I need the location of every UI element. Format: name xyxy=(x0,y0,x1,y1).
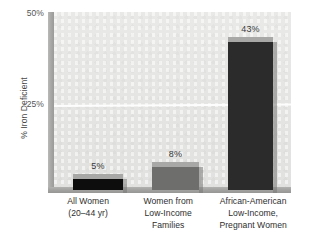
x-axis-label-1-line-2: (20–44 yr) xyxy=(48,208,128,220)
bar-all-women xyxy=(73,174,123,190)
bar-cap xyxy=(228,37,273,42)
y-axis-tick-25: 25% xyxy=(0,99,44,109)
bar-shadow xyxy=(199,167,203,193)
x-axis-label-3-line-3: Pregnant Women xyxy=(208,220,298,232)
x-axis-labels: All Women (20–44 yr) Women from Low-Inco… xyxy=(48,196,298,236)
bar-low-income-women xyxy=(152,162,199,190)
bar-value-label-3: 43% xyxy=(226,24,275,34)
bar-body xyxy=(73,179,123,190)
x-axis-label-2-line-1: Women from xyxy=(128,196,208,208)
bar-value-label-1: 5% xyxy=(73,161,123,171)
x-axis-label-2-line-2: Low-Income xyxy=(128,208,208,220)
x-axis-label-3-line-1: African-American xyxy=(208,196,298,208)
x-axis-label-2: Women from Low-Income Families xyxy=(128,196,208,236)
bar-shadow xyxy=(123,179,127,193)
y-axis-spine xyxy=(48,12,54,193)
x-axis-label-1-line-1: All Women xyxy=(48,196,128,208)
bar-cap xyxy=(152,162,199,167)
bar-african-american-pregnant-women xyxy=(228,37,273,190)
x-axis-label-2-line-3: Families xyxy=(128,220,208,232)
bar-body xyxy=(152,167,199,190)
x-axis-label-3-line-2: Low-Income, xyxy=(208,208,298,220)
y-axis-tick-50: 50% xyxy=(0,8,44,18)
bar-cap xyxy=(73,174,123,179)
x-axis-label-1: All Women (20–44 yr) xyxy=(48,196,128,236)
bar-shadow xyxy=(273,42,277,193)
bar-value-label-2: 8% xyxy=(151,149,200,159)
x-axis-label-3: African-American Low-Income, Pregnant Wo… xyxy=(208,196,298,236)
bar-body xyxy=(228,42,273,190)
bar-chart: % Iron Deficient 50% 25% 5% 8% 43% All W… xyxy=(0,0,311,237)
